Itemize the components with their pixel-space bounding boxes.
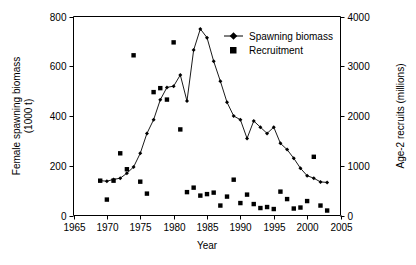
y-left-tick-label: 800 xyxy=(50,12,67,23)
y-left-axis-title-line1: Female spawning biomass xyxy=(11,57,22,175)
recruitment-point xyxy=(312,155,316,159)
recruitment-point xyxy=(218,203,222,207)
recruitment-point xyxy=(165,97,169,101)
x-tick-label: 1965 xyxy=(63,222,86,233)
x-tick-label: 1995 xyxy=(263,222,286,233)
y-right-tick-label: 1000 xyxy=(348,161,371,172)
recruitment-point xyxy=(265,205,269,209)
recruitment-point xyxy=(178,127,182,131)
legend-label-spawning-biomass: Spawning biomass xyxy=(249,31,333,42)
recruitment-point xyxy=(298,205,302,209)
recruitment-point xyxy=(252,202,256,206)
recruitment-point xyxy=(292,206,296,210)
recruitment-point xyxy=(185,190,189,194)
stock-recruitment-chart: 196519701975198019851990199520002005 020… xyxy=(0,0,416,265)
recruitment-point xyxy=(125,167,129,171)
recruitment-point xyxy=(105,197,109,201)
recruitment-point xyxy=(131,53,135,57)
recruitment-point xyxy=(258,206,262,210)
y-right-axis-title: Age-2 recruits (millions) xyxy=(395,63,406,168)
x-tick-label: 1970 xyxy=(96,222,119,233)
recruitment-point xyxy=(151,90,155,94)
recruitment-point xyxy=(205,192,209,196)
recruitment-point xyxy=(191,185,195,189)
chart-figure: 196519701975198019851990199520002005 020… xyxy=(0,0,416,265)
x-tick-label: 1975 xyxy=(129,222,152,233)
recruitment-point xyxy=(118,151,122,155)
y-right-tick-label: 2000 xyxy=(348,111,371,122)
y-left-tick-label: 200 xyxy=(50,161,67,172)
recruitment-point xyxy=(272,207,276,211)
legend-label-recruitment: Recruitment xyxy=(249,45,303,56)
recruitment-point xyxy=(98,178,102,182)
recruitment-point xyxy=(232,177,236,181)
recruitment-point xyxy=(285,197,289,201)
recruitment-point xyxy=(158,86,162,90)
x-tick-label: 2000 xyxy=(296,222,319,233)
y-left-tick-label: 600 xyxy=(50,61,67,72)
y-right-tick-label: 3000 xyxy=(348,61,371,72)
y-left-tick-label: 0 xyxy=(61,211,67,222)
y-right-tick-label: 4000 xyxy=(348,12,371,23)
recruitment-point xyxy=(171,40,175,44)
x-tick-label: 1985 xyxy=(196,222,219,233)
x-tick-label: 1990 xyxy=(229,222,252,233)
recruitment-point xyxy=(325,208,329,212)
recruitment-point xyxy=(318,203,322,207)
x-tick-label: 1980 xyxy=(163,222,186,233)
recruitment-point xyxy=(111,178,115,182)
square-icon xyxy=(230,47,237,54)
recruitment-point xyxy=(238,201,242,205)
x-tick-label: 2005 xyxy=(330,222,353,233)
recruitment-point xyxy=(138,179,142,183)
recruitment-point xyxy=(225,194,229,198)
recruitment-point xyxy=(211,190,215,194)
recruitment-point xyxy=(305,199,309,203)
y-right-tick-label: 0 xyxy=(348,211,354,222)
recruitment-point xyxy=(245,192,249,196)
x-axis-title: Year xyxy=(197,240,218,251)
recruitment-point xyxy=(198,193,202,197)
recruitment-point xyxy=(278,189,282,193)
recruitment-point xyxy=(145,191,149,195)
y-left-axis-title-line2: (1000 t) xyxy=(23,99,34,133)
y-left-tick-label: 400 xyxy=(50,111,67,122)
